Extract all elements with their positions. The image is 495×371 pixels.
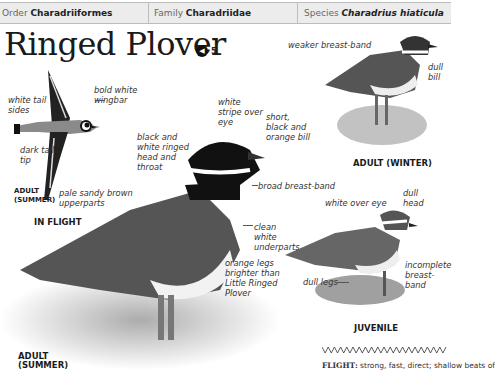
label-legs: orange legs brighter than Little Ringed … — [225, 258, 280, 298]
label-bill: short, black and orange bill — [266, 112, 311, 142]
label-wingbar: bold white wingbar — [94, 85, 144, 105]
flight-description: FLIGHT: strong, fast, direct; shallow be… — [322, 361, 495, 370]
leader-line — [337, 282, 349, 283]
page-title: Ringed Plover — [4, 25, 226, 63]
flight-pattern-zigzag — [322, 345, 447, 355]
leader-line — [95, 100, 105, 101]
label-dull-bill: dull bill — [428, 62, 450, 82]
taxonomy-bar: Order Charadriiformes Family Charadriida… — [0, 2, 451, 24]
sound-button[interactable]: ◀ 5 — [196, 45, 217, 57]
caption-adult-winter: ADULT (WINTER) — [353, 159, 432, 168]
label-eye-stripe: white stripe over eye — [218, 97, 263, 127]
leader-line — [243, 225, 253, 226]
order-cell: Order Charadriiformes — [0, 3, 149, 23]
speaker-icon: ◀ — [196, 45, 208, 57]
label-weaker-breast-band: weaker breast-band — [288, 40, 371, 50]
sound-track-number: 5 — [211, 47, 217, 56]
label-head: black and white ringed head and throat — [137, 132, 199, 172]
label-upperparts: pale sandy brown upperparts — [59, 188, 141, 208]
label-dull-legs: dull legs — [303, 277, 338, 287]
family-cell: Family Charadriidae — [149, 3, 298, 23]
caption-adult-summer: ADULT (SUMMER) — [18, 352, 68, 370]
juvenile-illustration — [285, 205, 420, 310]
caption-juvenile: JUVENILE — [354, 324, 398, 333]
label-tail-sides: white tail sides — [8, 95, 48, 115]
label-incomplete-breast-band: incomplete breast-band — [405, 260, 453, 290]
label-white-over-eye: white over eye — [325, 198, 387, 208]
label-dull-head: dull head — [403, 188, 428, 208]
species-cell: Species Charadrius hiaticula — [298, 3, 451, 23]
leader-line — [252, 185, 258, 186]
label-breast-band: broad breast-band — [258, 181, 335, 191]
